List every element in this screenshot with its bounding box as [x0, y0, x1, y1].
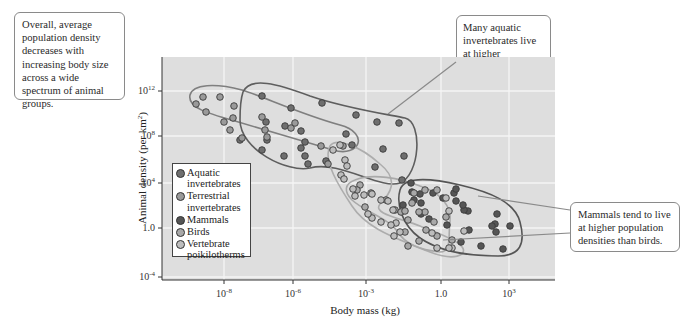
data-point	[494, 211, 501, 218]
x-axis-ticks: 10-810-610-31.0103	[216, 280, 516, 299]
legend-item-birds: Birds	[176, 226, 248, 237]
data-point	[374, 119, 381, 126]
data-point	[443, 195, 450, 202]
data-point	[365, 211, 372, 218]
data-point	[405, 217, 412, 224]
data-point	[461, 228, 468, 235]
data-point	[390, 207, 397, 214]
data-point	[431, 219, 438, 226]
data-point	[446, 208, 453, 215]
data-point	[200, 94, 207, 101]
legend-label: Aquatic invertebrates	[187, 167, 241, 189]
legend-label: Birds	[187, 226, 210, 237]
circle-marker-icon	[176, 216, 185, 225]
x-tick-label: 1.0	[435, 288, 448, 299]
data-point	[478, 243, 485, 250]
data-point	[361, 192, 368, 199]
data-point	[409, 200, 416, 207]
data-point	[337, 142, 344, 149]
y-axis-label: Animal density (per km2)	[136, 112, 149, 224]
data-point	[402, 208, 409, 215]
y-tick-label: 1012	[138, 84, 156, 96]
data-point	[221, 119, 228, 126]
legend-label: Mammals	[187, 214, 229, 225]
legend-item-mammals: Mammals	[176, 214, 248, 225]
circle-marker-icon	[176, 192, 185, 201]
data-point	[385, 198, 392, 205]
circle-marker-icon	[176, 169, 185, 178]
data-point	[325, 161, 332, 168]
data-point	[319, 100, 326, 107]
y-tick-label: 10-4	[139, 270, 155, 282]
data-point	[401, 153, 408, 160]
data-point	[391, 233, 398, 240]
data-point	[344, 163, 351, 170]
legend-item-aquatic-invertebrates: Aquatic invertebrates	[176, 167, 248, 189]
data-point	[500, 246, 507, 253]
data-point	[416, 238, 423, 245]
data-point	[203, 109, 210, 116]
data-point	[434, 245, 441, 252]
circle-marker-icon	[176, 240, 185, 249]
circle-marker-icon	[176, 228, 185, 237]
legend-item-terrestrial-invertebrates: Terrestrial invertebrates	[176, 190, 248, 212]
data-point	[405, 243, 412, 250]
data-point	[264, 134, 271, 141]
scatter-chart: 10-810-610-31.0103 10121081041.010-4 Bod…	[0, 0, 685, 319]
data-point	[217, 94, 224, 101]
data-point	[318, 143, 325, 150]
data-point	[429, 230, 436, 237]
data-point	[460, 202, 467, 209]
data-point	[434, 187, 441, 194]
data-point	[302, 139, 309, 146]
data-point	[362, 204, 369, 211]
data-point	[230, 115, 237, 122]
data-point	[259, 93, 266, 100]
data-point	[453, 198, 460, 205]
legend-label: Terrestrial invertebrates	[187, 190, 241, 212]
data-point	[262, 127, 269, 134]
data-point	[372, 164, 379, 171]
data-point	[378, 197, 385, 204]
legend-label: Vertebrate poikilotherms	[187, 238, 245, 260]
data-point	[444, 222, 451, 229]
data-point	[411, 190, 418, 197]
data-point	[489, 223, 496, 230]
data-point	[493, 229, 500, 236]
data-point	[350, 186, 357, 193]
data-point	[298, 145, 305, 152]
data-point	[453, 186, 460, 193]
data-point	[369, 191, 376, 198]
data-point	[259, 147, 266, 154]
data-point	[343, 131, 350, 138]
x-tick-label: 10-8	[216, 287, 232, 299]
legend: Aquatic invertebrates Terrestrial invert…	[172, 163, 251, 257]
data-point	[380, 146, 387, 153]
data-point	[302, 153, 309, 160]
data-point	[298, 128, 305, 135]
data-point	[422, 187, 429, 194]
data-point	[349, 142, 356, 149]
data-point	[418, 200, 425, 207]
data-point	[397, 229, 404, 236]
legend-item-vertebrate-poikilotherms: Vertebrate poikilotherms	[176, 238, 248, 260]
data-point	[353, 112, 360, 119]
data-point	[292, 120, 299, 127]
data-point	[341, 176, 348, 183]
x-tick-label: 10-6	[285, 287, 301, 299]
data-point	[352, 193, 359, 200]
data-point	[507, 223, 514, 230]
data-point	[388, 222, 395, 229]
data-point	[408, 180, 415, 187]
data-point	[416, 209, 423, 216]
x-axis-label: Body mass (kg)	[330, 304, 400, 317]
data-point	[193, 101, 200, 108]
data-point	[423, 227, 430, 234]
data-point	[281, 153, 288, 160]
data-point	[396, 120, 403, 127]
data-point	[259, 114, 266, 121]
data-point	[288, 105, 295, 112]
data-point	[330, 147, 337, 154]
data-point	[239, 135, 246, 142]
x-tick-label: 10-3	[358, 287, 374, 299]
